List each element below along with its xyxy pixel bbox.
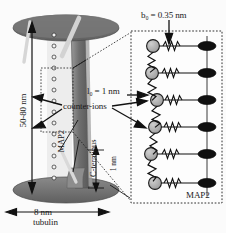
label-counter-ions: counter-ions — [63, 102, 107, 111]
detail-panel-border — [131, 31, 222, 203]
bead-node — [198, 41, 216, 50]
bead-node — [198, 68, 216, 77]
label-microtubule-length: 50-80 nm — [19, 81, 28, 141]
height-dimension-arrow — [29, 22, 36, 193]
label-b0-bond-length: b₀ = 0.35 nm — [141, 11, 187, 20]
bead-node — [198, 149, 216, 158]
bead-node — [198, 95, 216, 104]
label-l0-spacing: l₀ = 1 nm — [87, 87, 120, 96]
label-c-terminus: C-terminus — [89, 133, 98, 183]
cylinder-bottom-disc — [13, 177, 119, 203]
label-microtubule-width: 8 nm — [34, 208, 52, 217]
bead-node — [198, 178, 216, 187]
counter-ion-node — [146, 67, 159, 80]
figure-canvas: 50-80 nm 8 nm tubulin MAP2 C-terminus 1 … — [0, 0, 226, 233]
bead-node — [198, 122, 216, 131]
counter-ion-node — [147, 40, 160, 53]
label-dimer-spacing: 1 nm — [110, 151, 118, 177]
label-map2-left: MAP2 — [57, 124, 66, 158]
label-tubulin: tubulin — [33, 218, 58, 227]
label-map2-right: MAP2 — [186, 191, 210, 200]
width-dimension-arrow — [6, 209, 109, 216]
